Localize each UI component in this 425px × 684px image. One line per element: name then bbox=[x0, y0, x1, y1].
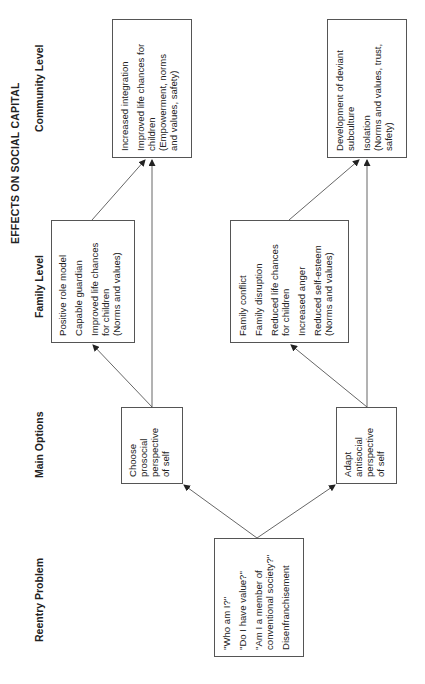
box-text: Family disruption bbox=[253, 226, 264, 336]
box-text: and values, safety) bbox=[168, 26, 179, 151]
box-text: Positive role model bbox=[57, 226, 68, 336]
box-text: of self bbox=[160, 412, 171, 477]
box-text: prosocial bbox=[138, 412, 149, 477]
box-text: subculture bbox=[345, 26, 356, 151]
box-text: Increased anger bbox=[296, 226, 307, 336]
column-label-community: Community Level bbox=[33, 44, 45, 132]
box-main-prosocial: Choose prosocial perspective of self bbox=[121, 407, 183, 484]
box-text: Choose bbox=[127, 412, 138, 477]
box-text: Reduced self-esteem bbox=[312, 226, 323, 336]
box-family-antisocial: Family conflict Family disruption Reduce… bbox=[230, 220, 349, 343]
box-text: safety) bbox=[383, 26, 394, 151]
box-reentry-problem: "Who am I?" "Do I have value?" "Am I a m… bbox=[214, 538, 304, 657]
box-text: Development of deviant bbox=[334, 26, 345, 151]
box-text: perspective bbox=[364, 412, 375, 477]
column-label-reentry: Reentry Problem bbox=[33, 558, 45, 642]
box-text: (Norms and values, trust, bbox=[372, 26, 383, 151]
arrow-prosocial-to-family bbox=[93, 345, 152, 407]
box-text: Disenfranchisement bbox=[280, 543, 291, 650]
box-text: conventional society?" bbox=[264, 543, 275, 650]
box-text: children bbox=[146, 26, 157, 151]
box-community-antisocial: Development of deviant subculture Isolat… bbox=[327, 19, 407, 158]
column-label-main-options: Main Options bbox=[33, 412, 45, 479]
box-text: Isolation bbox=[361, 26, 372, 151]
arrow-family-prosocial-to-community bbox=[92, 160, 145, 220]
column-label-family: Family Level bbox=[33, 255, 45, 318]
box-text: "Who am I?" bbox=[221, 543, 232, 650]
box-text: Reduced life chances bbox=[269, 226, 280, 336]
diagram-canvas: EFFECTS ON SOCIAL CAPITAL Community Leve… bbox=[0, 0, 425, 684]
arrow-antisocial-to-family bbox=[291, 345, 367, 407]
arrow-reentry-to-antisocial bbox=[257, 485, 335, 538]
box-text: (Empowerment, norms bbox=[157, 26, 168, 151]
box-text: "Am I a member of bbox=[253, 543, 264, 650]
box-text: Adapt bbox=[342, 412, 353, 477]
box-text: "Do I have value?" bbox=[237, 543, 248, 650]
box-community-prosocial: Increased integration Improved life chan… bbox=[112, 19, 192, 158]
box-text: antisocial bbox=[353, 412, 364, 477]
box-text: (Norms and values) bbox=[111, 226, 122, 336]
box-main-antisocial: Adapt antisocial perspective of self bbox=[336, 407, 397, 484]
arrow-reentry-to-prosocial bbox=[184, 485, 257, 538]
box-text: Capable guardian bbox=[73, 226, 84, 336]
box-text: Increased integration bbox=[119, 26, 130, 151]
box-text: Improved life chances bbox=[89, 226, 100, 336]
box-text: (Norms and values) bbox=[323, 226, 334, 336]
box-family-prosocial: Positive role model Capable guardian Imp… bbox=[51, 220, 135, 343]
box-text: Improved life chances for bbox=[135, 26, 146, 151]
box-text: Family conflict bbox=[237, 226, 248, 336]
diagram-title: EFFECTS ON SOCIAL CAPITAL bbox=[9, 82, 21, 244]
box-text: of self bbox=[375, 412, 386, 477]
box-text: for children bbox=[280, 226, 291, 336]
arrow-family-antisocial-to-community bbox=[289, 160, 359, 220]
box-text: perspective bbox=[149, 412, 160, 477]
box-text: for children bbox=[100, 226, 111, 336]
